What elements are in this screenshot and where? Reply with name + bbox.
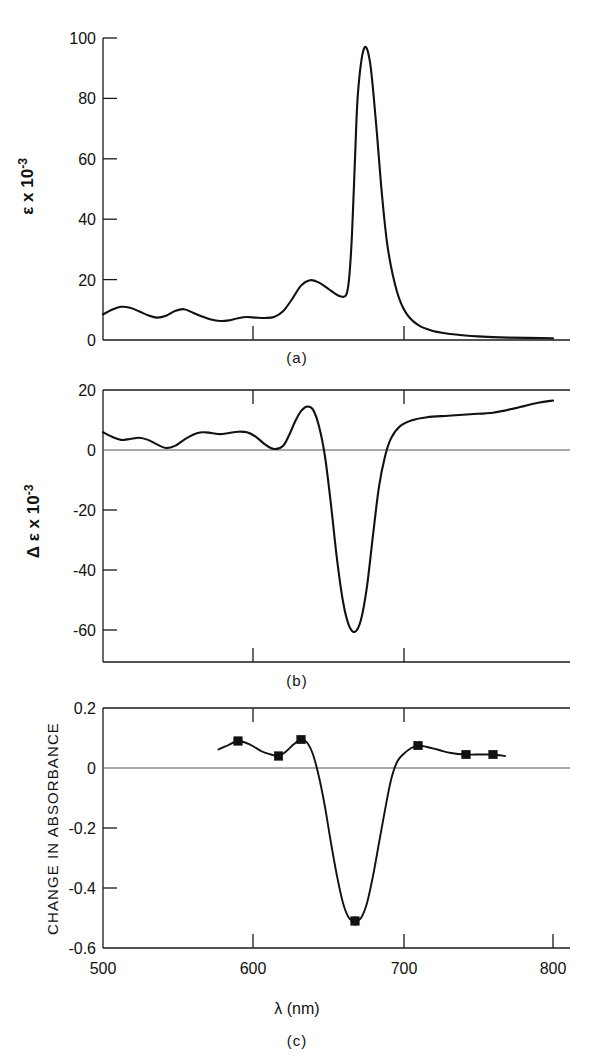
panel-b-ytick-label-minus20: -20 [73, 502, 96, 519]
panel-c-ytick-label-minus0p6: -0.6 [68, 940, 96, 957]
panel-b-ytick-label-minus60: -60 [73, 622, 96, 639]
panel-a-ytick-label-0: 0 [87, 332, 96, 349]
panel-c-ytick-label-minus0p2: -0.2 [68, 820, 96, 837]
panel-c-data-point [234, 737, 243, 746]
panel-c-data-markers [234, 735, 498, 925]
panel-a-ytick-label-60: 60 [78, 151, 96, 168]
panel-b-ytick-label-minus40: -40 [73, 562, 96, 579]
panel-c-data-point [489, 750, 498, 759]
panel-b-ytick-label-20: 20 [78, 382, 96, 399]
panel-c-xtick-label-600: 600 [240, 960, 267, 977]
panel-c-data-point [414, 741, 423, 750]
panel-c-ytick-label-0: 0 [87, 760, 96, 777]
panel-a-ytick-label-20: 20 [78, 272, 96, 289]
panel-c-xtick-label-700: 700 [391, 960, 418, 977]
panel-a-ytick-label-40: 40 [78, 211, 96, 228]
panel-b-caption: (b) [0, 672, 594, 689]
panel-c-xtick-label-500: 500 [90, 960, 117, 977]
panel-c-ytick-label-0p2: 0.2 [74, 700, 96, 717]
panel-a-curve [103, 47, 553, 338]
panel-c-data-point [351, 917, 360, 926]
panel-c-data-point [297, 735, 306, 744]
panel-c-data-point [462, 750, 471, 759]
panel-c-data-point [274, 752, 283, 761]
panel-c-ytick-label-minus0p4: -0.4 [68, 880, 96, 897]
panel-a-caption: (a) [0, 349, 594, 366]
panel-c-fit-curve [219, 739, 506, 921]
panel-a-ytick-label-80: 80 [78, 90, 96, 107]
panel-b-plot: 20 0 -20 -40 -60 [0, 375, 594, 675]
panel-a-plot: 100 80 60 40 20 0 [0, 0, 594, 352]
figure-container: ε x 10-3 100 80 60 40 20 0 (a) Δ ε x 10-… [0, 0, 594, 1063]
panel-a-ytick-label-100: 100 [69, 30, 96, 47]
panel-c-xtick-label-800: 800 [540, 960, 567, 977]
panel-c-x-axis-label: λ (nm) [0, 1000, 594, 1018]
panel-b-ytick-label-0: 0 [87, 442, 96, 459]
panel-b-curve [103, 401, 553, 632]
panel-c-caption: (c) [0, 1032, 594, 1049]
panel-c-plot: 0.2 0 -0.2 -0.4 -0.6 500 600 700 800 [0, 693, 594, 993]
